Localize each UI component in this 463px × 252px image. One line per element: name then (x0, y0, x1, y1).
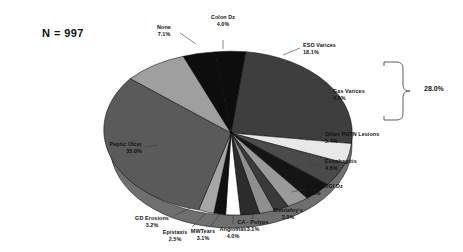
slice-label-dieulafoys: Dieulafoy's 3.0% (268, 207, 308, 221)
slice-label-mwtears-text: MWTears (191, 228, 215, 234)
slice-label-none-pct: 7.1% (143, 31, 185, 38)
slice-label-epistaxis-text: Epistaxis (163, 229, 188, 235)
slice-label-eso-varices-pct: 18.1% (303, 49, 336, 56)
slice-label-peptic-ulcer-text: Peptic Ulcer (110, 141, 142, 147)
slice-label-colon-dz: Colon Dz 4.0% (196, 14, 250, 28)
slice-label-peptic-ulcer: Peptic Ulcer 35.0% (82, 141, 142, 155)
leader-eso-varices (283, 48, 300, 55)
slice-label-eso-varices-text: ESO Varices (303, 42, 336, 48)
slice-label-gd-erosions-pct: 3.2% (129, 222, 175, 229)
slice-label-dieulafoys-text: Dieulafoy's (273, 207, 303, 213)
slice-label-none-text: None (157, 24, 171, 30)
slice-label-esophagitis-text: Esophagitis (325, 158, 357, 164)
slice-label-gas-varices-pct: 4.5% (333, 95, 365, 102)
slice-label-other-phtn-pct: 5.4% (325, 138, 379, 145)
slice-label-gas-varices-text: Gas Varices (333, 88, 365, 94)
slice-label-other-phtn-text: Other PHTN Lesions (325, 131, 379, 137)
slice-label-other-ugi-dz-text: Other UGI Dz (308, 183, 343, 189)
slice-label-gd-erosions-text: GD Erosions (135, 215, 169, 221)
slice-label-angiomas-text: Angiomas (220, 226, 247, 232)
slice-label-dieulafoys-pct: 3.0% (268, 214, 308, 221)
slice-label-peptic-ulcer-pct: 35.0% (82, 148, 142, 155)
slice-label-gas-varices: Gas Varices 4.5% (333, 88, 365, 102)
slice-label-other-phtn: Other PHTN Lesions 5.4% (325, 131, 379, 145)
slice-label-epistaxis-pct: 2.5% (156, 236, 194, 243)
sample-size-label: N = 997 (42, 27, 84, 39)
slice-label-esophagitis-pct: 4.6% (325, 165, 357, 172)
slice-label-gd-erosions: GD Erosions 3.2% (129, 215, 175, 229)
slice-label-other-ugi-dz-pct: 4.3% (308, 190, 343, 197)
phtn-bracket (384, 62, 410, 120)
slice-label-colon-dz-pct: 4.0% (196, 21, 250, 28)
pie-chart-figure: N = 997 28.0% Colon Dz 4.0% None 7.1% ES… (0, 0, 463, 252)
slice-label-ca-polyps-text: CA - Polyps (237, 219, 268, 225)
slice-label-none: None 7.1% (143, 24, 185, 38)
slice-label-esophagitis: Esophagitis 4.6% (325, 158, 357, 172)
bracket-total-label: 28.0% (424, 85, 444, 92)
slice-label-colon-dz-text: Colon Dz (211, 14, 235, 20)
slice-label-epistaxis: Epistaxis 2.5% (156, 229, 194, 243)
slice-label-other-ugi-dz: Other UGI Dz 4.3% (308, 183, 343, 197)
slice-label-eso-varices: ESO Varices 18.1% (303, 42, 336, 56)
